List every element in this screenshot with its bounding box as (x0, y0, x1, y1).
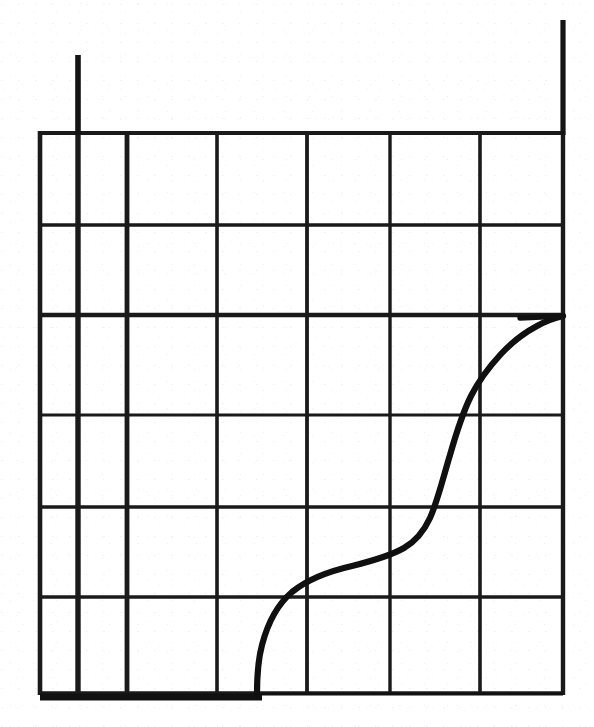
figure-background (0, 0, 594, 727)
figure-root (0, 0, 594, 727)
grid-chart-svg (0, 0, 594, 727)
ogive-curve-plateau (520, 316, 563, 318)
